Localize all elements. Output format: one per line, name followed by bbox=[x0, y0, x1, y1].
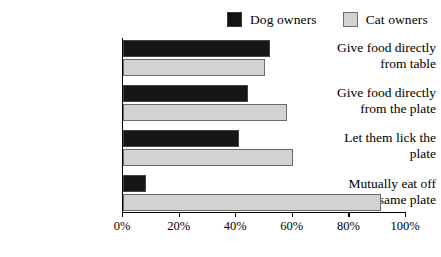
x-tick-4 bbox=[348, 212, 349, 217]
cat-owners-swatch-icon bbox=[343, 12, 358, 27]
x-tick-3 bbox=[292, 212, 293, 217]
bar-dog-2 bbox=[123, 130, 239, 147]
x-axis-line bbox=[122, 212, 406, 213]
x-tick-label-1: 20% bbox=[167, 219, 190, 234]
x-tick-label-3: 60% bbox=[280, 219, 303, 234]
dog-owners-swatch-icon bbox=[227, 12, 242, 27]
bar-chart: Dog owners Cat owners Give food directly… bbox=[0, 0, 441, 257]
legend-label-dog-owners: Dog owners bbox=[250, 13, 317, 27]
bar-cat-3 bbox=[123, 194, 381, 211]
x-tick-label-2: 40% bbox=[224, 219, 247, 234]
legend-item-dog-owners: Dog owners bbox=[227, 12, 317, 27]
x-tick-5 bbox=[405, 212, 406, 217]
legend-label-cat-owners: Cat owners bbox=[366, 13, 428, 27]
bar-cat-1 bbox=[123, 104, 287, 121]
x-tick-label-5: 100% bbox=[390, 219, 419, 234]
legend-item-cat-owners: Cat owners bbox=[343, 12, 428, 27]
bar-cat-0 bbox=[123, 59, 265, 76]
bar-dog-3 bbox=[123, 175, 146, 192]
plot-area: 0%20%40%60%80%100% bbox=[122, 38, 405, 212]
bar-cat-2 bbox=[123, 149, 293, 166]
bar-dog-0 bbox=[123, 40, 270, 57]
x-tick-label-4: 80% bbox=[337, 219, 360, 234]
bar-dog-1 bbox=[123, 85, 248, 102]
chart-legend: Dog owners Cat owners bbox=[227, 12, 428, 27]
x-tick-label-0: 0% bbox=[114, 219, 131, 234]
x-tick-1 bbox=[179, 212, 180, 217]
x-tick-0 bbox=[122, 212, 123, 217]
x-tick-2 bbox=[235, 212, 236, 217]
